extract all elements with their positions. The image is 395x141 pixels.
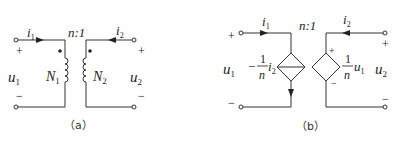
label-N2: N2 xyxy=(92,69,107,86)
terminal-b-1minus xyxy=(239,105,243,109)
caption-a: （a） xyxy=(64,119,93,132)
label-a-minus-right: − xyxy=(138,89,145,103)
svg-text:1: 1 xyxy=(345,52,351,66)
arrow-source-down-icon xyxy=(288,89,294,97)
terminal-b-2plus xyxy=(383,31,387,35)
diagram-a-ideal-transformer: i1 i2 n:1 + + − − u1 u2 N1 N2 （a） xyxy=(8,23,145,132)
label-b-plus-right: + xyxy=(382,37,389,51)
terminal-a-1minus xyxy=(14,105,18,109)
arrow-i1-icon xyxy=(36,37,44,43)
label-b-i1: i1 xyxy=(262,14,270,31)
label-vcvs-minus: − xyxy=(331,78,337,89)
svg-text:n: n xyxy=(344,68,350,82)
label-voltage-source-value: 1 n u1 xyxy=(342,52,365,82)
secondary-coil-icon xyxy=(83,58,86,82)
terminal-a-1plus xyxy=(14,38,18,42)
arrow-i2-icon xyxy=(108,37,116,43)
voltage-source-diamond-icon xyxy=(312,53,340,81)
label-b-minus-left: − xyxy=(228,96,235,110)
label-b-u2: u2 xyxy=(375,61,387,79)
label-u1: u1 xyxy=(8,69,20,87)
label-b-ratio: n:1 xyxy=(299,18,316,33)
label-a-plus-right: + xyxy=(138,44,145,58)
label-a-plus-left: + xyxy=(16,44,23,58)
primary-coil-icon xyxy=(65,58,68,82)
diagram-b-controlled-source-model: i1 i2 n:1 + − + − u1 u2 − 1 n i2 + − 1 n… xyxy=(223,12,389,133)
terminal-a-2plus xyxy=(132,38,136,42)
label-i2: i2 xyxy=(116,23,124,40)
svg-text:i2: i2 xyxy=(268,59,276,76)
label-i1: i1 xyxy=(27,25,35,42)
label-u2: u2 xyxy=(130,69,142,87)
svg-text:1: 1 xyxy=(260,52,266,66)
label-ratio: n:1 xyxy=(68,25,85,40)
circuit-figure: i1 i2 n:1 + + − − u1 u2 N1 N2 （a） xyxy=(0,0,395,141)
label-N1: N1 xyxy=(45,69,60,86)
label-b-i2: i2 xyxy=(343,12,351,29)
dot-primary-icon xyxy=(58,49,62,53)
terminal-a-2minus xyxy=(132,105,136,109)
label-vcvs-plus: + xyxy=(329,45,335,56)
terminal-b-1plus xyxy=(239,31,243,35)
label-a-minus-left: − xyxy=(16,89,23,103)
label-b-plus-left: + xyxy=(228,29,235,43)
arrow-b-i2-icon xyxy=(342,30,350,36)
label-current-source-value: − 1 n i2 xyxy=(248,52,276,82)
dot-secondary-icon xyxy=(88,49,92,53)
caption-b: （b） xyxy=(296,120,325,133)
svg-text:u1: u1 xyxy=(354,59,365,76)
svg-text:n: n xyxy=(259,68,265,82)
label-b-u1: u1 xyxy=(223,61,235,79)
svg-text:−: − xyxy=(248,59,255,74)
label-b-minus-right: − xyxy=(382,92,389,106)
